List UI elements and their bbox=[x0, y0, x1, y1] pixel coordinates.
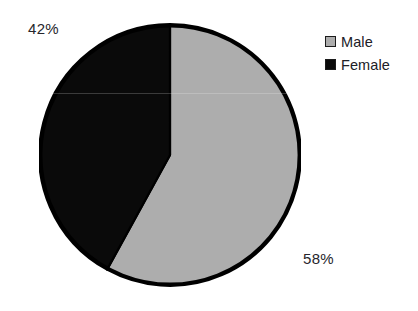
pie-chart-figure: 42% 58% Male Female bbox=[0, 0, 418, 311]
legend-label-male: Male bbox=[341, 34, 373, 50]
data-label-male: 58% bbox=[303, 250, 334, 267]
pie-chart-plot-area bbox=[39, 23, 301, 287]
data-label-female: 42% bbox=[28, 20, 59, 37]
legend-item-male[interactable]: Male bbox=[325, 30, 415, 53]
legend-swatch-male-icon bbox=[325, 36, 336, 47]
chart-legend: Male Female bbox=[325, 30, 415, 76]
pie-chart-svg bbox=[39, 23, 301, 287]
chart-title bbox=[0, 0, 418, 3]
legend-label-female: Female bbox=[341, 57, 390, 73]
legend-swatch-female-icon bbox=[325, 59, 336, 70]
legend-item-female[interactable]: Female bbox=[325, 53, 415, 76]
